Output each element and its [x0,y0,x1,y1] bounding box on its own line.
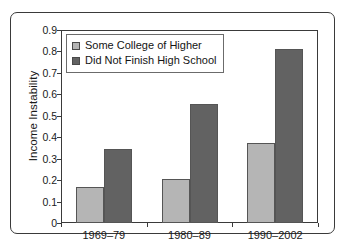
y-axis-tick-mark [57,159,61,160]
y-axis-tick-mark [57,116,61,117]
y-axis-tick-label: 0.3 [42,153,57,164]
y-axis-tick-mark [57,94,61,95]
x-axis-tick-label: 1990–2002 [248,228,303,242]
y-axis-tick-label: 0.8 [42,46,57,57]
bar [190,104,218,223]
y-axis-tick-mark [57,137,61,138]
legend-item-some-college: Some College of Higher [72,38,216,53]
y-axis-tick-label: 0.4 [42,132,57,143]
legend-label: Did Not Finish High School [85,54,216,67]
x-axis-tick-label: 1969–79 [82,228,125,242]
y-axis-tick-mark [57,180,61,181]
y-axis-tick-label: 0.2 [42,175,57,186]
x-axis-tick-mark [61,223,62,227]
x-axis-tick-labels: 1969–791980–891990–2002 [61,228,318,244]
chart-legend: Some College of Higher Did Not Finish Hi… [66,34,224,73]
y-axis-tick-label: 0.1 [42,196,57,207]
y-axis-tick-mark [57,30,61,31]
legend-item-did-not-finish: Did Not Finish High School [72,53,216,68]
x-axis-tick-mark [318,223,319,227]
bar [162,179,190,223]
bar [275,49,303,223]
legend-label: Some College of Higher [85,39,202,52]
x-axis-tick-mark [232,223,233,227]
x-axis-tick-mark [147,223,148,227]
y-axis-tick-labels: 0.90.80.70.60.50.40.30.20.10 [30,30,57,223]
y-axis-tick-label: 0.5 [42,110,57,121]
y-axis-tick-label: 0.7 [42,67,57,78]
legend-swatch-icon [72,57,80,65]
y-axis-tick-mark [57,73,61,74]
y-axis-tick-mark [57,202,61,203]
bar [247,143,275,223]
bar [104,149,132,223]
y-axis-tick-label: 0.9 [42,25,57,36]
bar [76,187,104,223]
x-axis-tick-label: 1980–89 [168,228,211,242]
y-axis-tick-label: 0.6 [42,89,57,100]
legend-swatch-icon [72,42,80,50]
y-axis-tick-mark [57,51,61,52]
